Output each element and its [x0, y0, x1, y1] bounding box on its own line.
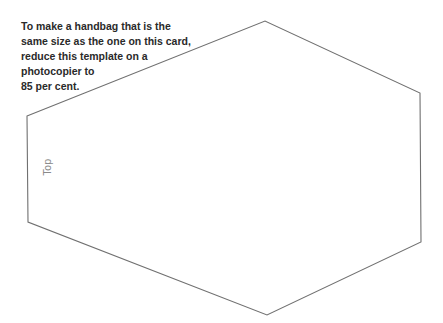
handbag-template-page: To make a handbag that is the same size … [0, 0, 443, 323]
instructions-line: photocopier to [21, 64, 221, 79]
instructions-line: 85 per cent. [21, 79, 221, 94]
top-orientation-label: Top [42, 159, 53, 176]
instructions-line: To make a handbag that is the [21, 19, 221, 34]
instructions-line: same size as the one on this card, [21, 34, 221, 49]
instructions-text: To make a handbag that is the same size … [21, 19, 221, 94]
instructions-line: reduce this template on a [21, 49, 221, 64]
